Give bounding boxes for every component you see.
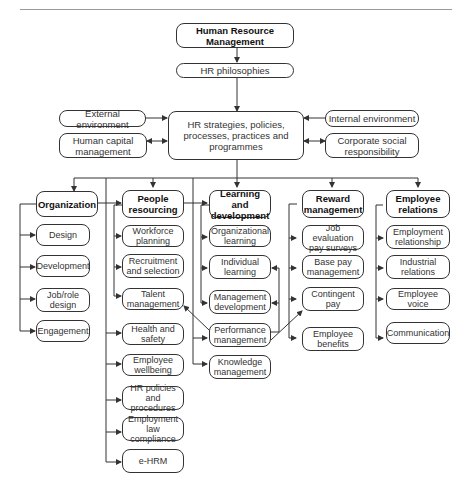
pr-item-recruitment: Recruitment and selection <box>122 254 184 278</box>
pr-item-workforce-planning: Workforce planning <box>122 225 184 247</box>
org-item-job-role-design: Job/role design <box>36 288 90 312</box>
external-environment-box: External environment <box>59 110 146 127</box>
pr-item-employment-law: Employment law compliance <box>122 417 184 441</box>
internal-environment-box: Internal environment <box>325 110 419 127</box>
rw-item-job-evaluation: Job evaluation pay surveys <box>302 225 364 250</box>
org-item-development: Development <box>36 255 90 277</box>
area-reward-management: Reward management <box>302 190 364 218</box>
rw-item-base-pay: Base pay management <box>302 255 364 279</box>
ld-item-performance-management: Performance management <box>209 323 271 347</box>
area-learning-development: Learning and development <box>209 190 271 218</box>
pr-item-employee-wellbeing: Employee wellbeing <box>122 354 184 376</box>
ld-item-knowledge-management: Knowledge management <box>209 355 271 379</box>
er-item-employee-voice: Employee voice <box>386 288 450 310</box>
csr-box: Corporate social responsibility <box>325 133 419 158</box>
rw-item-contingent-pay: Contingent pay <box>302 287 364 311</box>
area-people-resourcing: People resourcing <box>122 190 184 218</box>
pr-item-talent-management: Talent management <box>122 288 184 310</box>
rw-item-employee-benefits: Employee benefits <box>302 327 364 351</box>
area-employee-relations: Employee relations <box>386 190 450 218</box>
hr-philosophies-box: HR philosophies <box>176 63 294 78</box>
ld-item-individual-learning: Individual learning <box>209 255 271 279</box>
hr-strategies-box: HR strategies, policies, processes, prac… <box>168 111 304 160</box>
area-organization: Organization <box>36 191 98 217</box>
org-item-engagement: Engagement <box>36 320 90 342</box>
er-item-industrial-relations: Industrial relations <box>386 255 450 279</box>
er-item-communication: Communication <box>386 322 450 344</box>
er-item-employment-relationship: Employment relationship <box>386 225 450 249</box>
org-item-design: Design <box>36 224 90 246</box>
pr-item-health-safety: Health and safety <box>122 323 184 345</box>
pr-item-hr-policies: HR policies and procedures <box>122 386 184 410</box>
human-capital-box: Human capital management <box>59 133 147 158</box>
hrm-root-box: Human Resource Management <box>176 23 294 48</box>
ld-item-management-development: Management development <box>209 290 271 314</box>
ld-item-organizational-learning: Organizational learning <box>209 225 271 247</box>
pr-item-e-hrm: e-HRM <box>122 449 184 473</box>
